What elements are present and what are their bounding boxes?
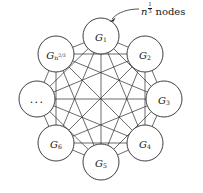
annotation-variable: n [141, 6, 147, 17]
graph-node-g5[interactable]: G5 [83, 144, 119, 180]
annotation-arrow [110, 9, 139, 22]
annotation-exponent: 13 [148, 2, 152, 14]
graph-node-ellipsis[interactable]: ... [19, 81, 55, 117]
graph-node-g2[interactable]: G2 [127, 36, 163, 72]
graph-node-g3[interactable]: G3 [146, 81, 182, 117]
graph-edge [44, 71, 49, 83]
graph-edge [152, 116, 157, 127]
graph-edge [73, 150, 85, 155]
graph-edge [118, 150, 129, 155]
graph-edge [44, 116, 49, 127]
graph-node-gn23[interactable]: Gn2/3 [38, 36, 74, 72]
node-label: ... [30, 93, 45, 106]
annotation-label: n13nodes [141, 2, 185, 17]
graph-edge [152, 71, 157, 83]
graph-edge [73, 43, 85, 48]
graph-canvas: G1G2G3G4G5G6...Gn2/3 [0, 0, 203, 193]
graph-edge [118, 43, 129, 47]
graph-node-g1[interactable]: G1 [83, 18, 119, 54]
annotation-exponent-denominator: 3 [148, 9, 152, 15]
annotation-word: nodes [155, 6, 185, 17]
arrow-curve [112, 9, 139, 19]
graph-node-g4[interactable]: G4 [127, 125, 163, 161]
graph-node-g6[interactable]: G6 [38, 125, 74, 161]
graph-figure: G1G2G3G4G5G6...Gn2/3 n13nodes [0, 0, 203, 193]
